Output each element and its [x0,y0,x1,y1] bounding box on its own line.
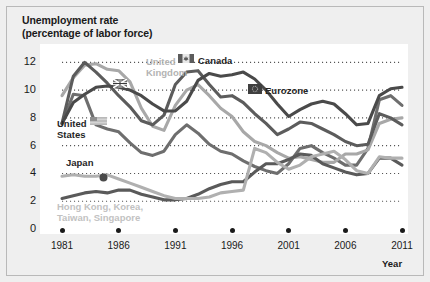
tigers-label-line2: Taiwan, Singapore [57,213,143,224]
uk-flag-icon [113,79,127,88]
eurozone-label: Eurozone [265,86,308,97]
chart-figure: Unemployment rate (percentage of labor f… [0,0,430,282]
canada-flag-marker [178,54,194,63]
y-tick-label-12: 12 [18,55,36,67]
chart-title: Unemployment rate [22,14,152,27]
us-flag-icon [90,117,107,125]
uk-label-line2: Kingdom [146,68,187,79]
series-line-united-states [62,94,402,173]
x-axis-title: Year [382,258,402,269]
uk-flag-marker [113,79,127,88]
japan-flag-icon [99,173,108,182]
x-tick-dot-1981 [60,228,65,233]
x-tick-label-1986: 1986 [99,240,139,251]
x-tick-dot-2006 [343,228,348,233]
us-flag-marker [90,117,107,125]
x-tick-dot-1991 [173,228,178,233]
y-tick-label-2: 2 [18,194,36,206]
y-tick-label-4: 4 [18,166,36,178]
x-tick-label-1991: 1991 [155,240,195,251]
canada-label: Canada [198,56,232,67]
x-tick-label-2006: 2006 [325,240,365,251]
chart-title-block: Unemployment rate (percentage of labor f… [22,14,152,40]
japan-dot-marker [99,173,108,182]
united-states-label: United States [57,119,87,140]
canada-flag-icon [178,54,194,63]
y-tick-label-8: 8 [18,111,36,123]
chart-subtitle: (percentage of labor force) [22,27,152,40]
us-label-line1: United [57,119,87,130]
x-tick-label-1981: 1981 [42,240,82,251]
x-tick-label-1996: 1996 [212,240,252,251]
y-tick-label-10: 10 [18,83,36,95]
x-tick-dot-1996 [230,228,235,233]
y-tick-label-6: 6 [18,139,36,151]
y-tick-label-0: 0 [18,222,36,234]
x-tick-label-2011: 2011 [382,240,422,251]
us-label-line2: States [57,130,87,141]
asian-tigers-label: Hong Kong, Korea, Taiwan, Singapore [57,202,143,223]
japan-label: Japan [66,158,93,169]
x-tick-dot-2011 [400,228,405,233]
x-tick-label-2001: 2001 [269,240,309,251]
eurozone-flag-marker [248,84,262,94]
eurozone-flag-icon [248,84,262,94]
tigers-label-line1: Hong Kong, Korea, [57,202,143,213]
